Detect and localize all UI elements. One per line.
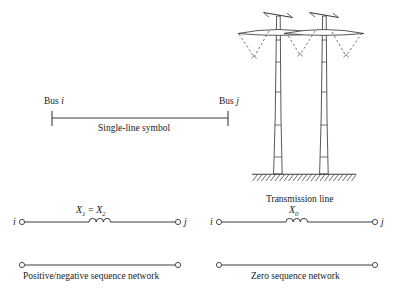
zero-terminal-i-label: i — [210, 217, 213, 227]
pn-reactance-label: X1 = X2 — [76, 205, 106, 218]
zero-sequence-network-caption: Zero sequence network — [251, 272, 340, 282]
single-line-symbol-caption: Single-line symbol — [98, 124, 170, 134]
zero-terminal-j-label: j — [381, 217, 384, 227]
tower-2 — [284, 13, 364, 175]
pn-terminal-j — [175, 219, 180, 224]
bus-j-index: j — [236, 96, 239, 106]
zero-reference-terminal-right — [372, 262, 377, 267]
pn-terminal-i-label: i — [13, 217, 16, 227]
pn-inductor-coil — [89, 218, 111, 222]
bus-i-index: i — [61, 96, 64, 106]
zero-terminal-j — [372, 219, 377, 224]
zero-inductor-coil — [286, 218, 308, 222]
figure-canvas: Bus i Bus j Single-line symbol Transmiss… — [0, 0, 401, 290]
zero-reactance-label: X0 — [289, 205, 299, 218]
tower-1 — [238, 13, 318, 175]
zero-terminal-i — [216, 219, 221, 224]
pn-terminal-i — [19, 219, 24, 224]
bus-i-label: Bus i — [44, 97, 64, 107]
pn-reference-terminal-left — [19, 262, 24, 267]
zero-sequence-network-group — [216, 218, 377, 267]
zero-reference-terminal-left — [216, 262, 221, 267]
positive-negative-network-caption: Positive/negative sequence network — [23, 272, 159, 282]
ground-hatching — [253, 175, 357, 182]
shield-v-3-right — [346, 33, 362, 56]
diagram-vector-layer — [0, 0, 401, 290]
pn-terminal-j-label: j — [184, 217, 187, 227]
apex-mark-1 — [252, 56, 257, 59]
pn-reactance-equals: = — [86, 204, 97, 215]
bus-j-label: Bus j — [219, 97, 239, 107]
zero-reactance-sub: 0 — [295, 210, 298, 217]
positive-negative-network-group — [19, 218, 180, 267]
transmission-line-caption: Transmission line — [266, 195, 333, 205]
transmission-tower-illustration — [238, 13, 364, 182]
shield-v-1-left — [239, 34, 254, 57]
pn-reactance-sub-2: 2 — [102, 210, 105, 217]
ground-symbol — [252, 174, 356, 181]
pn-reference-terminal-right — [175, 262, 180, 267]
